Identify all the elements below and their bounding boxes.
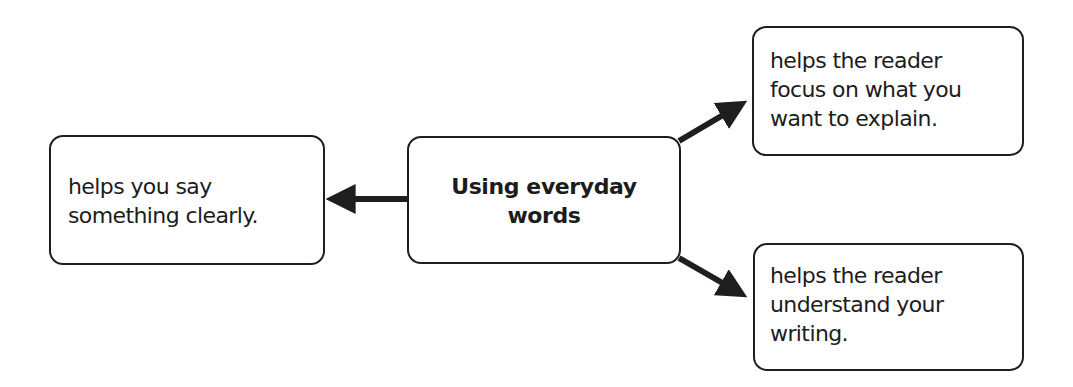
node-top-right: helps the reader focus on what you want … — [752, 26, 1024, 156]
node-bottom-right-line-1: helps the reader — [770, 261, 943, 290]
node-left-line-1: helps you say — [68, 172, 258, 201]
node-left-text: helps you say something clearly. — [68, 172, 258, 230]
node-top-right-line-1: helps the reader — [770, 46, 961, 75]
arrow-to-bottom-right — [679, 258, 740, 293]
node-top-right-line-3: want to explain. — [770, 104, 961, 133]
node-top-right-line-2: focus on what you — [770, 75, 961, 104]
node-center-line-1: Using everyday — [409, 172, 679, 201]
node-left: helps you say something clearly. — [49, 135, 325, 265]
node-center: Using everyday words — [407, 136, 681, 264]
node-left-line-2: something clearly. — [68, 201, 258, 230]
node-center-text: Using everyday words — [409, 172, 679, 230]
concept-map-diagram: helps you say something clearly. Using e… — [0, 0, 1073, 387]
node-top-right-text: helps the reader focus on what you want … — [770, 46, 961, 133]
node-bottom-right-line-2: understand your — [770, 290, 943, 319]
node-bottom-right: helps the reader understand your writing… — [753, 243, 1024, 371]
node-bottom-right-text: helps the reader understand your writing… — [770, 261, 943, 348]
node-center-line-2: words — [409, 201, 679, 230]
arrow-to-top-right — [679, 105, 740, 141]
node-bottom-right-line-3: writing. — [770, 319, 943, 348]
